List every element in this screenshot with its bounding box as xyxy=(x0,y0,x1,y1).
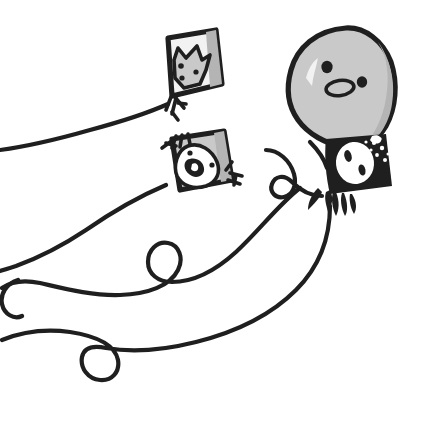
kite-dog-nose-shine xyxy=(191,163,198,171)
kite-cat-eye-right xyxy=(193,69,198,74)
kite-dog-tassel-right xyxy=(226,162,242,185)
bird-character xyxy=(288,28,395,148)
kite-dog-eye-left xyxy=(187,150,192,155)
kite-cat-eye-left xyxy=(178,63,184,69)
kite-dog-eye-right xyxy=(209,162,214,167)
bird-eye-left xyxy=(321,61,332,73)
kite-cat xyxy=(166,30,222,120)
kite-dog xyxy=(162,131,242,190)
bird-eye-right xyxy=(357,76,367,88)
string-right-curl xyxy=(266,150,322,197)
kite-black xyxy=(308,134,392,216)
kite-cat-nose xyxy=(179,75,184,80)
string-cat-kite xyxy=(0,104,168,150)
string-bird-to-kite xyxy=(310,142,327,168)
string-lower-loop xyxy=(2,206,330,380)
string-dog-kite xyxy=(0,185,166,271)
kite-illustration xyxy=(0,0,423,426)
kite-cat-tassel xyxy=(166,96,186,120)
illustration-canvas: Three kites with animal faces and a larg… xyxy=(0,0,423,426)
string-middle-loop xyxy=(2,188,300,295)
